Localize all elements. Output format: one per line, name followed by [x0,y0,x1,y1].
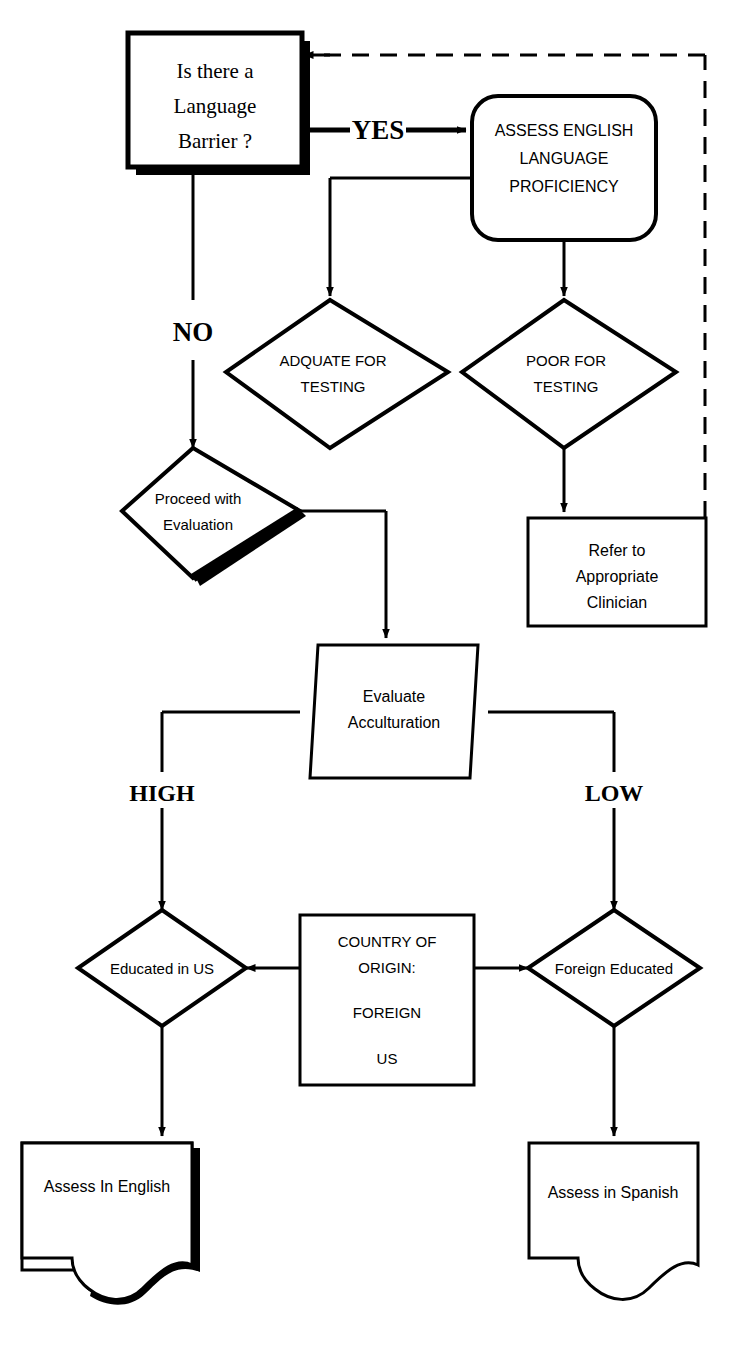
origin-line2: ORIGIN: [358,959,416,976]
assess-english-line3: PROFICIENCY [509,178,619,195]
node-adquate-for-testing[interactable]: ADQUATE FOR TESTING [226,300,448,448]
edge-label-yes: YES [352,115,405,145]
edge-high [162,712,300,910]
node-poor-for-testing[interactable]: POOR FOR TESTING [462,300,676,448]
node-country-of-origin[interactable]: COUNTRY OF ORIGIN: FOREIGN US [300,915,474,1085]
flowchart-svg: Is there a Language Barrier ? ASSESS ENG… [0,0,742,1356]
language-barrier-line3: Barrier ? [178,129,252,153]
assess-english-line1: ASSESS ENGLISH [495,122,634,139]
refer-line1: Refer to [589,542,646,559]
assess-english-doc-label: Assess In English [44,1178,170,1195]
node-assess-english[interactable]: ASSESS ENGLISH LANGUAGE PROFICIENCY [472,96,656,240]
poor-line2: TESTING [533,378,598,395]
origin-line3: FOREIGN [353,1004,421,1021]
edge-label-no: NO [173,317,214,347]
node-refer-clinician[interactable]: Refer to Appropriate Clinician [528,518,706,626]
node-assess-in-spanish[interactable]: Assess in Spanish [529,1143,698,1299]
node-proceed-with-evaluation[interactable]: Proceed with Evaluation [122,448,306,586]
refer-line2: Appropriate [576,568,659,585]
node-evaluate-acculturation[interactable]: Evaluate Acculturation [310,645,478,778]
origin-line4: US [377,1050,398,1067]
evaluate-line2: Acculturation [348,714,441,731]
node-language-barrier[interactable]: Is there a Language Barrier ? [128,33,310,175]
foreign-educated-line1: Foreign Educated [555,960,673,977]
edge-assess-to-adquate [330,178,472,296]
assess-english-line2: LANGUAGE [520,150,609,167]
language-barrier-line2: Language [174,94,257,118]
language-barrier-line1: Is there a [177,59,255,83]
edge-proceed-to-evaluate [300,511,386,638]
evaluate-line1: Evaluate [363,688,425,705]
proceed-line2: Evaluation [163,516,233,533]
edge-label-low: LOW [585,780,644,806]
edge-low [488,712,614,910]
flowchart-canvas: Is there a Language Barrier ? ASSESS ENG… [0,0,742,1356]
node-educated-in-us[interactable]: Educated in US [78,910,246,1026]
edge-label-high: HIGH [129,780,195,806]
proceed-line1: Proceed with [155,490,242,507]
origin-line1: COUNTRY OF [338,933,437,950]
poor-line1: POOR FOR [526,352,606,369]
assess-spanish-doc-label: Assess in Spanish [548,1184,679,1201]
adquate-line1: ADQUATE FOR [279,352,386,369]
educated-us-line1: Educated in US [110,960,214,977]
node-assess-in-english[interactable]: Assess In English [22,1143,200,1305]
refer-line3: Clinician [587,594,647,611]
node-foreign-educated[interactable]: Foreign Educated [528,910,700,1026]
adquate-line2: TESTING [300,378,365,395]
